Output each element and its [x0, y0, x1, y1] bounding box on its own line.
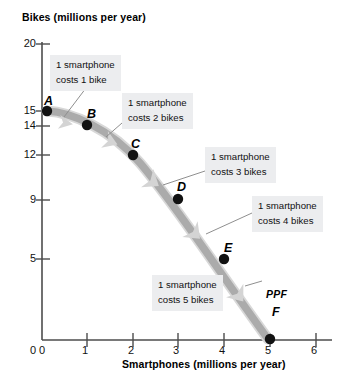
callout-3-line-1: 1 smartphone [211, 150, 270, 165]
point-c [128, 150, 138, 160]
point-label-e: E [224, 241, 232, 255]
callout-cost-1-bike: 1 smartphone costs 1 bike [50, 55, 121, 91]
callout-cost-5-bikes: 1 smartphone costs 5 bikes [152, 275, 223, 311]
point-label-b: B [87, 107, 96, 121]
point-f [265, 334, 275, 344]
leader-5 [245, 281, 262, 286]
leader-4 [206, 213, 252, 234]
callout-4-line-2: costs 4 bikes [258, 214, 317, 229]
callout-cost-4-bikes: 1 smartphone costs 4 bikes [252, 196, 323, 232]
point-d [173, 194, 183, 204]
callout-cost-2-bikes: 1 smartphone costs 2 bikes [122, 93, 193, 129]
point-label-f: F [272, 305, 280, 319]
point-e [219, 254, 229, 264]
ppf-chart: Bikes (millions per year) Smartphones (m… [0, 0, 346, 376]
callout-2-line-2: costs 2 bikes [128, 111, 187, 126]
callout-3-line-2: costs 3 bikes [211, 165, 270, 180]
callout-1-line-2: costs 1 bike [56, 73, 115, 88]
point-label-d: D [177, 180, 186, 194]
callout-1-line-1: 1 smartphone [56, 58, 115, 73]
y-tick-marks [36, 44, 50, 259]
point-b [82, 120, 92, 130]
callout-cost-3-bikes: 1 smartphone costs 3 bikes [205, 147, 276, 183]
callout-5-line-1: 1 smartphone [158, 278, 217, 293]
point-label-a: A [44, 94, 53, 108]
point-label-c: C [131, 137, 140, 151]
ppf-curve-label: PPF [266, 288, 287, 300]
callout-2-line-1: 1 smartphone [128, 96, 187, 111]
callout-5-line-2: costs 5 bikes [158, 293, 217, 308]
callout-4-line-1: 1 smartphone [258, 199, 317, 214]
